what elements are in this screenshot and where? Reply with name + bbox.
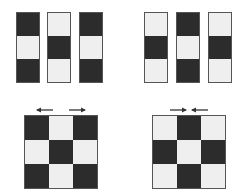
top-left-strip-2 bbox=[47, 12, 71, 83]
dark-cell bbox=[209, 36, 231, 59]
light-cell bbox=[201, 116, 225, 140]
dark-cell bbox=[73, 116, 97, 140]
dark-cell bbox=[48, 36, 70, 59]
bottom-left-checkerboard bbox=[24, 115, 98, 189]
light-cell bbox=[177, 36, 199, 59]
light-cell bbox=[177, 140, 201, 164]
dark-cell bbox=[25, 164, 49, 188]
light-cell bbox=[153, 116, 177, 140]
light-cell bbox=[25, 140, 49, 164]
light-cell bbox=[73, 140, 97, 164]
dark-cell bbox=[17, 13, 39, 36]
light-cell bbox=[209, 59, 231, 82]
light-cell bbox=[201, 164, 225, 188]
light-cell bbox=[80, 36, 102, 59]
dark-cell bbox=[177, 116, 201, 140]
top-left-strip-3 bbox=[79, 12, 103, 83]
light-cell bbox=[17, 36, 39, 59]
light-cell bbox=[48, 59, 70, 82]
dark-cell bbox=[145, 36, 167, 59]
inward-arrows-icon bbox=[152, 105, 226, 115]
light-cell bbox=[145, 59, 167, 82]
dark-cell bbox=[153, 140, 177, 164]
dark-cell bbox=[17, 59, 39, 82]
light-cell bbox=[153, 164, 177, 188]
dark-cell bbox=[25, 116, 49, 140]
dark-cell bbox=[80, 59, 102, 82]
top-left-strip-1 bbox=[16, 12, 40, 83]
dark-cell bbox=[177, 164, 201, 188]
light-cell bbox=[48, 13, 70, 36]
dark-cell bbox=[177, 13, 199, 36]
dark-cell bbox=[80, 13, 102, 36]
light-cell bbox=[145, 13, 167, 36]
outward-arrows-icon bbox=[24, 105, 98, 115]
light-cell bbox=[209, 13, 231, 36]
light-cell bbox=[49, 164, 73, 188]
dark-cell bbox=[201, 140, 225, 164]
top-right-strip-1 bbox=[144, 12, 168, 83]
bottom-right-checkerboard bbox=[152, 115, 226, 189]
dark-cell bbox=[73, 164, 97, 188]
top-right-strip-3 bbox=[208, 12, 232, 83]
light-cell bbox=[49, 116, 73, 140]
dark-cell bbox=[177, 59, 199, 82]
top-right-strip-2 bbox=[176, 12, 200, 83]
dark-cell bbox=[49, 140, 73, 164]
